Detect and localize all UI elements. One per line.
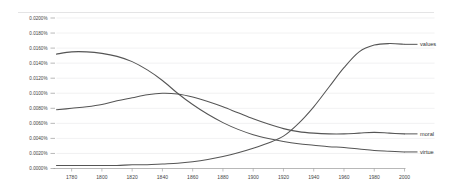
- series-label-values: values: [420, 41, 436, 47]
- x-tick-label: 1880: [217, 174, 228, 180]
- chart-canvas: 0.0000%0.0020%0.0040%0.0060%0.0080%0.010…: [0, 0, 452, 188]
- chart-background: [0, 0, 452, 188]
- x-tick-label: 1820: [127, 174, 138, 180]
- x-tick-label: 1780: [66, 174, 77, 180]
- y-tick-label: 0.0040%: [29, 136, 47, 141]
- ngram-chart: 0.0000%0.0020%0.0040%0.0060%0.0080%0.010…: [0, 0, 452, 188]
- x-tick-label: 1940: [308, 174, 319, 180]
- y-tick-label: 0.0060%: [29, 121, 47, 126]
- y-tick-label: 0.0160%: [29, 46, 47, 51]
- y-tick-label: 0.0180%: [29, 31, 47, 36]
- y-tick-label: 0.0140%: [29, 61, 47, 66]
- y-tick-label: 0.0020%: [29, 151, 47, 156]
- y-tick-label: 0.0120%: [29, 76, 47, 81]
- y-tick-label: 0.0000%: [29, 166, 47, 171]
- series-label-moral: moral: [420, 131, 434, 137]
- y-tick-label: 0.0200%: [29, 16, 47, 21]
- x-tick-label: 1900: [248, 174, 259, 180]
- x-tick-label: 1800: [96, 174, 107, 180]
- x-tick-label: 1860: [187, 174, 198, 180]
- x-tick-label: 1980: [369, 174, 380, 180]
- y-tick-label: 0.0080%: [29, 106, 47, 111]
- x-tick-label: 1920: [278, 174, 289, 180]
- x-tick-label: 1840: [157, 174, 168, 180]
- x-tick-label: 1960: [338, 174, 349, 180]
- x-tick-label: 2000: [399, 174, 410, 180]
- series-label-virtue: virtue: [420, 149, 434, 155]
- y-tick-label: 0.0100%: [29, 91, 47, 96]
